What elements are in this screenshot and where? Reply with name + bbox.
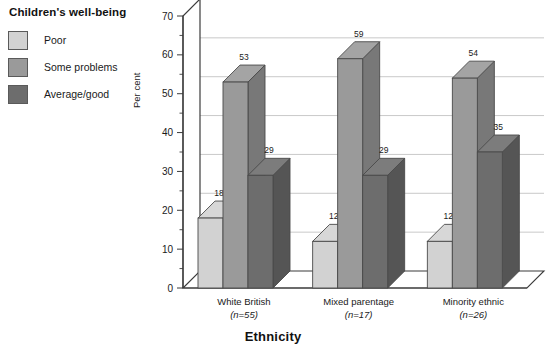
y-axis-tick-label: 0 [167,283,173,294]
bar-value-label: 53 [239,52,249,62]
x-axis-title: Ethnicity [0,329,546,344]
bar-value-label: 18 [214,188,224,198]
bar-value-label: 12 [329,211,339,221]
group-sample-size: (n=26) [403,309,543,322]
bar-value-label: 35 [494,122,504,132]
bar-value-label: 59 [354,29,364,39]
x-axis-group-label: Minority ethnic(n=26) [403,296,543,321]
bar-value-label: 29 [379,145,389,155]
y-axis-tick-label: 30 [162,166,174,177]
y-axis-tick-label: 40 [162,127,174,138]
y-axis-tick-label: 60 [162,49,174,60]
bar-average-good [363,158,405,288]
bar-average-good [477,135,519,288]
y-axis-tick-label: 20 [162,205,174,216]
bar-value-label: 29 [264,145,274,155]
bar-value-label: 54 [469,48,479,58]
y-axis-tick-label: 50 [162,88,174,99]
y-axis-tick-label: 70 [162,11,174,22]
group-name: Minority ethnic [403,296,543,309]
y-axis-tick-label: 10 [162,244,174,255]
bar-chart: Children's well-being PoorSome problemsA… [0,0,546,351]
bar-average-good [248,158,290,288]
bar-value-label: 12 [444,211,454,221]
